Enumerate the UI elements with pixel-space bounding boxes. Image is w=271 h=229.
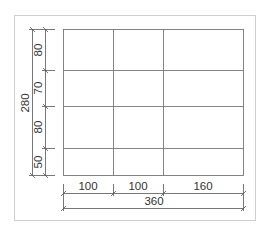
row-label-4: 50 [32,156,44,169]
row-label-2: 70 [32,82,44,95]
total-width-label: 360 [144,195,163,207]
row-label-3: 80 [32,121,44,134]
grid [64,30,244,176]
grid-outline [64,30,244,176]
total-height-label: 280 [19,93,31,112]
col-label-2: 100 [128,180,147,192]
dimension-diagram: 100 100 160 360 80 70 80 50 280 [0,0,271,229]
row-label-1: 80 [32,44,44,57]
col-label-1: 100 [78,180,97,192]
col-label-3: 160 [193,180,212,192]
